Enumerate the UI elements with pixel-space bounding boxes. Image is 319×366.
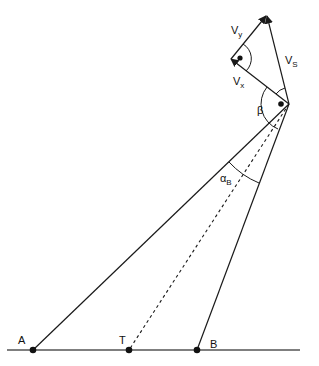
label-vx: Vx [233, 75, 244, 90]
point-b [194, 347, 201, 354]
vector-diagram: A T B Vy Vx VS β αB [0, 0, 319, 366]
line-s-to-b [197, 104, 289, 350]
right-angle-dot-vxvy [237, 55, 242, 60]
label-a: A [18, 334, 26, 346]
label-beta: β [257, 104, 263, 116]
right-angle-arc-vxvy [243, 44, 251, 71]
alpha-b-angle-arc [229, 162, 259, 183]
point-t [126, 347, 133, 354]
label-vs: VS [285, 54, 298, 69]
label-b: B [210, 338, 217, 350]
point-a [30, 347, 37, 354]
label-t: T [119, 334, 126, 346]
label-alpha-b: αB [220, 172, 232, 187]
label-vy: Vy [231, 24, 242, 39]
vs-vx-angle-arc [276, 88, 285, 94]
vector-vy [231, 16, 266, 59]
line-s-to-t-dashed [129, 104, 289, 350]
line-s-to-a [33, 104, 289, 350]
right-angle-dot-s [278, 101, 284, 107]
